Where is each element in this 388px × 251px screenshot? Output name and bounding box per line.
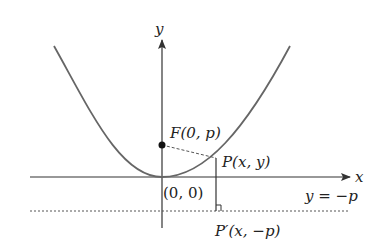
directrix-label: y = −p bbox=[304, 187, 358, 205]
x-axis-label: x bbox=[355, 168, 364, 186]
focus-point bbox=[159, 142, 166, 149]
focus-label: F(0, p) bbox=[169, 124, 221, 142]
right-angle-marker bbox=[216, 205, 221, 211]
y-axis-label: y bbox=[154, 20, 164, 38]
point-label: P(x, y) bbox=[221, 153, 270, 171]
parabola-diagram: y x F(0, p) P(x, y) (0, 0) y = −p P′(x, … bbox=[0, 0, 388, 251]
focus-to-point-segment bbox=[162, 145, 216, 158]
foot-label: P′(x, −p) bbox=[214, 222, 281, 240]
origin-label: (0, 0) bbox=[163, 184, 203, 202]
